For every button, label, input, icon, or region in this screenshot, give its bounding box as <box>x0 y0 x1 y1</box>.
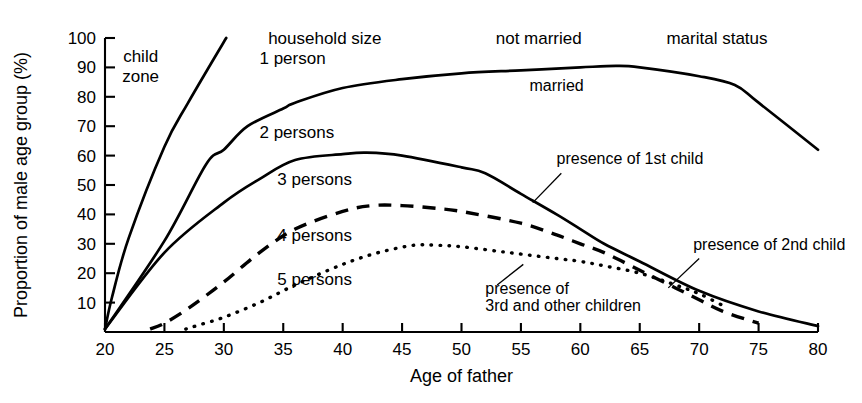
x-tick-label: 45 <box>393 340 412 359</box>
x-tick-label: 55 <box>511 340 530 359</box>
y-tick-label: 100 <box>68 29 96 48</box>
child-zone-line: zone <box>122 67 159 86</box>
y-tick-label: 50 <box>77 176 96 195</box>
x-axis-title: Age of father <box>410 366 513 386</box>
annotation-presence-of: presence of <box>485 280 569 297</box>
annotation-married: married <box>529 77 583 94</box>
y-tick-label: 30 <box>77 235 96 254</box>
annotation-presence-of-1st-child: presence of 1st child <box>557 150 704 167</box>
x-tick-label: 50 <box>452 340 471 359</box>
x-tick-label: 25 <box>155 340 174 359</box>
x-tick-label: 30 <box>214 340 233 359</box>
y-tick-label: 90 <box>77 58 96 77</box>
series-label-4-persons: 4 persons <box>277 226 352 245</box>
series-label-3-persons: 3 persons <box>277 170 352 189</box>
child-zone-line: child <box>123 47 158 66</box>
x-tick-label: 35 <box>274 340 293 359</box>
y-tick-label: 70 <box>77 117 96 136</box>
group-label-not-married: not married <box>496 29 582 48</box>
axes-layer <box>105 38 818 332</box>
y-tick-label: 20 <box>77 264 96 283</box>
series-label-1-person: 1 person <box>259 49 325 68</box>
x-tick-label: 75 <box>749 340 768 359</box>
annotation-presence-of-2nd-child: presence of 2nd child <box>693 236 845 253</box>
group-label-child-zone: childzone <box>122 47 159 86</box>
chart-figure: 2025303540455055606570758010203040506070… <box>0 0 862 403</box>
group-label-household-size: household size <box>268 29 381 48</box>
annotation-3rd-and-other-children: 3rd and other children <box>485 297 641 314</box>
y-tick-label: 60 <box>77 147 96 166</box>
x-tick-label: 40 <box>333 340 352 359</box>
curves-layer <box>105 38 818 329</box>
chart-plot-area: 2025303540455055606570758010203040506070… <box>0 0 862 403</box>
group-label-marital-status: marital status <box>666 29 767 48</box>
y-axis-title: Proportion of male age group (%) <box>11 52 31 318</box>
x-tick-label: 80 <box>809 340 828 359</box>
x-tick-label: 20 <box>96 340 115 359</box>
y-tick-label: 40 <box>77 205 96 224</box>
y-tick-label: 10 <box>77 294 96 313</box>
series-label-2-persons: 2 persons <box>259 123 334 142</box>
y-tick-label: 80 <box>77 88 96 107</box>
x-tick-label: 70 <box>690 340 709 359</box>
series-label-5-persons: 5 persons <box>277 270 352 289</box>
leader-1st-child <box>533 173 562 202</box>
series-curve-4-persons <box>186 245 723 329</box>
x-tick-label: 60 <box>571 340 590 359</box>
series-curve-3-persons <box>150 205 758 329</box>
x-tick-label: 65 <box>630 340 649 359</box>
